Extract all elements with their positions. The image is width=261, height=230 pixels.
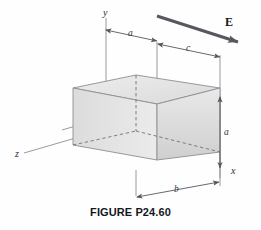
rectangular-box — [73, 75, 220, 160]
physics-figure-diagram: E y z — [0, 0, 261, 230]
electric-field-label: E — [225, 15, 233, 29]
dimension-b-bottom-label: b — [174, 184, 179, 194]
x-axis-label: x — [230, 165, 236, 176]
figure-caption: FIGURE P24.60 — [0, 206, 261, 218]
dimension-c-top-label: c — [186, 43, 191, 53]
figure-container: E y z — [0, 0, 261, 230]
z-axis-label: z — [14, 148, 19, 159]
dimension-a-right-label: a — [224, 127, 229, 137]
y-axis-label: y — [102, 7, 108, 18]
dimension-a-top-label: a — [128, 28, 133, 38]
